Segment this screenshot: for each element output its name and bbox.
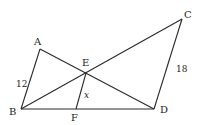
label-e: E [82,57,89,68]
measure-ab: 12 [16,79,27,89]
measure-ef: x [84,90,89,100]
label-a: A [33,36,42,47]
measure-cd: 18 [176,64,188,74]
geometry-diagram: A B C D E F 12 18 x [0,0,200,125]
label-b: B [9,106,16,117]
label-f: F [71,112,78,123]
label-d: D [160,104,168,115]
label-c: C [184,9,192,20]
segment-ad [40,49,154,109]
